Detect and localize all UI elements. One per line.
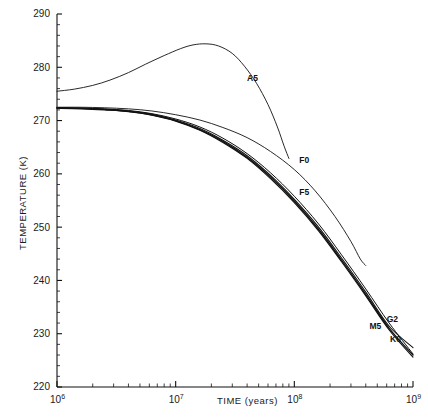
x-axis-title: TIME (years) bbox=[217, 395, 278, 406]
curve-label-f0: F0 bbox=[299, 155, 309, 165]
curve-label-m5: M5 bbox=[370, 321, 382, 331]
temperature-vs-time-chart: 220230240250260270280290106107108109TIME… bbox=[0, 0, 428, 417]
curve-label-g2: G2 bbox=[387, 314, 399, 324]
figure-container: 220230240250260270280290106107108109TIME… bbox=[0, 0, 428, 417]
x-tick-label: 107 bbox=[169, 393, 184, 405]
y-tick-label: 280 bbox=[33, 62, 50, 73]
y-tick-label: 240 bbox=[33, 275, 50, 286]
x-tick-label: 108 bbox=[287, 393, 302, 405]
curve-f0 bbox=[57, 107, 366, 265]
y-tick-label: 260 bbox=[33, 168, 50, 179]
y-axis-title: TEMPERATURE (K) bbox=[17, 156, 28, 250]
curve-label-f5: F5 bbox=[299, 187, 309, 197]
y-tick-label: 290 bbox=[33, 8, 50, 19]
x-tick-label: 109 bbox=[406, 393, 421, 405]
y-tick-label: 250 bbox=[33, 222, 50, 233]
curve-label-k0: K0 bbox=[390, 334, 401, 344]
curve-label-a5: A5 bbox=[247, 73, 258, 83]
curve-g2 bbox=[57, 108, 413, 348]
y-tick-label: 230 bbox=[33, 328, 50, 339]
y-tick-label: 270 bbox=[33, 115, 50, 126]
y-tick-label: 220 bbox=[33, 381, 50, 392]
x-tick-label: 106 bbox=[50, 393, 65, 405]
curve-f5 bbox=[57, 108, 413, 354]
